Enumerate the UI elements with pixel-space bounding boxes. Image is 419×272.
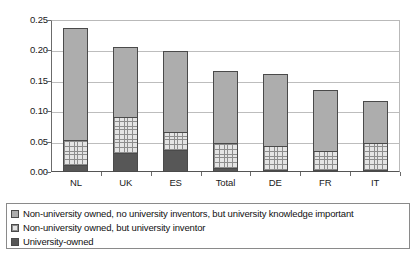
x-tick-mark xyxy=(250,172,251,176)
bar-stack xyxy=(113,47,138,172)
bar-group xyxy=(213,20,238,172)
bar-group xyxy=(113,20,138,172)
bar-segment-inventor xyxy=(113,117,138,153)
y-tick-mark xyxy=(46,172,51,173)
x-tick-mark xyxy=(201,172,202,176)
x-tick-label: Total xyxy=(201,177,251,188)
bar-segment-inventor xyxy=(263,146,288,170)
x-tick-label: UK xyxy=(101,177,151,188)
bars-layer xyxy=(51,20,400,172)
legend-swatch-owned-icon xyxy=(11,238,19,246)
y-tick-label: 0.20 xyxy=(4,45,48,55)
x-tick-label: NL xyxy=(51,177,101,188)
bar-segment-owned xyxy=(163,150,188,172)
bar-group xyxy=(263,20,288,172)
bar-segment-inventor xyxy=(313,151,338,170)
y-tick-label: 0.00 xyxy=(4,167,48,177)
x-tick-mark xyxy=(300,172,301,176)
bar-segment-owned xyxy=(313,170,338,172)
x-tick-mark xyxy=(400,172,401,176)
bar-group xyxy=(313,20,338,172)
bar-segment-knowledge xyxy=(113,47,138,116)
legend-item-owned: University-owned xyxy=(11,235,409,248)
bar-stack xyxy=(363,101,388,172)
legend-label-inventor: Non-university owned, but university inv… xyxy=(23,222,205,233)
bar-stack xyxy=(213,71,238,172)
bar-segment-knowledge xyxy=(163,51,188,132)
x-tick-label: DE xyxy=(250,177,300,188)
y-tick-label: 0.25 xyxy=(4,15,48,25)
stacked-bar-chart: 0.250.200.150.100.050.00 NLUKESTotalDEFR… xyxy=(0,0,419,272)
x-tick-label: ES xyxy=(151,177,201,188)
legend-swatch-inventor-icon xyxy=(11,224,19,232)
bar-group xyxy=(63,20,88,172)
y-tick-label: 0.10 xyxy=(4,106,48,116)
x-tick-mark xyxy=(151,172,152,176)
bar-segment-owned xyxy=(63,165,88,172)
bar-segment-owned xyxy=(363,170,388,172)
bar-segment-knowledge xyxy=(363,101,388,143)
bar-stack xyxy=(313,90,338,172)
bar-stack xyxy=(163,51,188,172)
bar-segment-knowledge xyxy=(313,90,338,151)
bar-stack xyxy=(63,28,88,172)
legend-label-owned: University-owned xyxy=(23,236,93,247)
bar-stack xyxy=(263,74,288,172)
bar-segment-owned xyxy=(113,153,138,172)
y-tick-label: 0.05 xyxy=(4,137,48,147)
bar-group xyxy=(363,20,388,172)
bar-segment-inventor xyxy=(363,143,388,170)
x-tick-label: FR xyxy=(300,177,350,188)
bar-segment-inventor xyxy=(163,132,188,150)
x-tick-mark xyxy=(101,172,102,176)
x-tick-label: IT xyxy=(350,177,400,188)
bar-segment-inventor xyxy=(63,140,88,165)
bar-group xyxy=(163,20,188,172)
bar-segment-knowledge xyxy=(63,28,88,140)
bar-segment-knowledge xyxy=(213,71,238,143)
legend-item-knowledge: Non-university owned, no university inve… xyxy=(11,207,409,220)
bar-segment-owned xyxy=(263,170,288,172)
legend-label-knowledge: Non-university owned, no university inve… xyxy=(23,208,354,219)
x-tick-mark xyxy=(350,172,351,176)
legend-swatch-knowledge-icon xyxy=(11,210,19,218)
y-tick-label: 0.15 xyxy=(4,76,48,86)
chart-legend: Non-university owned, no university inve… xyxy=(6,203,410,249)
bar-segment-knowledge xyxy=(263,74,288,146)
bar-segment-inventor xyxy=(213,143,238,168)
bar-segment-owned xyxy=(213,168,238,172)
legend-item-inventor: Non-university owned, but university inv… xyxy=(11,221,409,234)
